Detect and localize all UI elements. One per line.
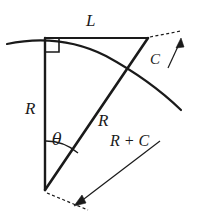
total-length-dimension-arrowhead bbox=[74, 195, 86, 206]
label-arc-length: L bbox=[86, 12, 95, 29]
label-offset: C bbox=[150, 52, 160, 67]
label-radius-vertical: R bbox=[25, 100, 35, 117]
offset-extension-dashed bbox=[150, 31, 181, 37]
geometry-diagram: L C R θ R R + C bbox=[0, 0, 199, 218]
label-radius-diagonal: R bbox=[98, 112, 108, 129]
diagonal-radius-line bbox=[45, 38, 148, 190]
total-length-dimension-line bbox=[80, 141, 160, 202]
label-radius-plus-offset: R + C bbox=[110, 133, 149, 149]
label-angle-theta: θ bbox=[52, 132, 62, 148]
offset-dimension-arrowhead bbox=[176, 38, 184, 48]
